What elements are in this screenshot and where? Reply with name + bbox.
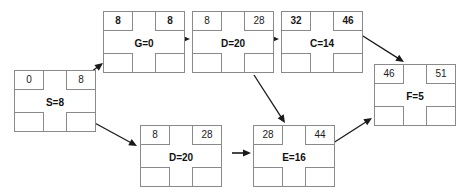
node-d-top-late-start [192,53,222,73]
node-g-early-start: 8 [103,11,133,31]
node-s-early-finish: 8 [66,70,96,90]
node-s[interactable]: 0 8 S=8 [14,70,96,132]
node-d-top-early-start: 8 [192,11,222,31]
node-g-late-finish [155,53,185,73]
node-f-early-finish: 51 [426,64,456,84]
node-f-early-start-value: 46 [383,69,394,79]
node-g-early-finish: 8 [155,11,185,31]
node-f-early-finish-value: 51 [435,69,446,79]
node-d-top[interactable]: 8 28 D=20 [192,11,274,73]
node-d-bottom-late-finish [192,167,222,187]
node-f-label: F=5 [375,92,455,102]
node-e[interactable]: 28 44 E=16 [253,125,335,187]
node-g-early-finish-value: 8 [167,16,173,26]
node-c-late-start [281,53,311,73]
node-s-early-start-value: 0 [26,75,32,85]
node-d-top-early-finish: 28 [244,11,274,31]
node-c-early-finish: 46 [333,11,363,31]
node-f[interactable]: 46 51 F=5 [374,64,456,126]
node-d-top-early-finish-value: 28 [253,16,264,26]
node-g-late-start [103,53,133,73]
node-g-label: G=0 [104,39,184,49]
node-e-early-start: 28 [253,125,283,145]
node-g[interactable]: 8 8 G=0 [103,11,185,73]
node-d-top-late-finish [244,53,274,73]
node-c-early-start-value: 32 [290,16,301,26]
node-d-bottom-label: D=20 [141,153,221,163]
node-e-late-finish [305,167,335,187]
node-c[interactable]: 32 46 C=14 [281,11,363,73]
network-diagram-canvas: 0 8 S=8 8 8 G=0 8 28 [0,0,462,196]
node-d-bottom-early-finish-value: 28 [201,130,212,140]
node-d-bottom-early-start: 8 [140,125,170,145]
node-e-late-start [253,167,283,187]
node-s-late-finish [66,112,96,132]
node-s-early-finish-value: 8 [78,75,84,85]
node-c-early-finish-value: 46 [342,16,353,26]
node-g-early-start-value: 8 [115,16,121,26]
node-e-label: E=16 [254,153,334,163]
node-d-bottom-early-start-value: 8 [152,130,158,140]
node-f-late-start [374,106,404,126]
node-s-early-start: 0 [14,70,44,90]
node-e-early-finish: 44 [305,125,335,145]
arrow-e-to-f [330,118,372,145]
node-c-late-finish [333,53,363,73]
node-c-label: C=14 [282,39,362,49]
node-f-late-finish [426,106,456,126]
node-d-bottom[interactable]: 8 28 D=20 [140,125,222,187]
node-d-top-label: D=20 [193,39,273,49]
node-d-bottom-late-start [140,167,170,187]
node-c-early-start: 32 [281,11,311,31]
arrow-d_top-to-e [254,75,285,123]
node-f-early-start: 46 [374,64,404,84]
arrow-d_bottom-to-e [232,149,251,156]
node-d-top-early-start-value: 8 [204,16,210,26]
node-e-early-start-value: 28 [262,130,273,140]
node-e-early-finish-value: 44 [314,130,325,140]
node-s-late-start [14,112,44,132]
node-s-label: S=8 [15,98,95,108]
node-d-bottom-early-finish: 28 [192,125,222,145]
